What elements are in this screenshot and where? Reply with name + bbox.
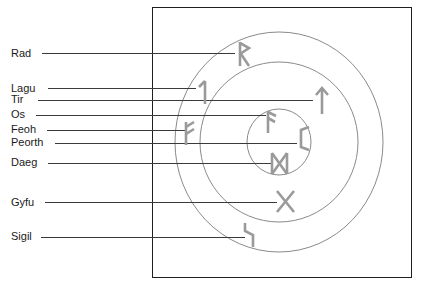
rune-labels: Rad Lagu Tir Os Feoh Peorth Daeg Gyfu Si… <box>11 47 43 242</box>
label-peorth: Peorth <box>11 136 43 148</box>
rune-diagram: Rad Lagu Tir Os Feoh Peorth Daeg Gyfu Si… <box>0 0 423 286</box>
label-sigil: Sigil <box>11 230 32 242</box>
label-feoh: Feoh <box>11 123 36 135</box>
label-rad: Rad <box>11 47 31 59</box>
label-os: Os <box>11 108 26 120</box>
label-tir: Tir <box>11 93 24 105</box>
label-gyfu: Gyfu <box>11 196 34 208</box>
label-daeg: Daeg <box>11 156 37 168</box>
